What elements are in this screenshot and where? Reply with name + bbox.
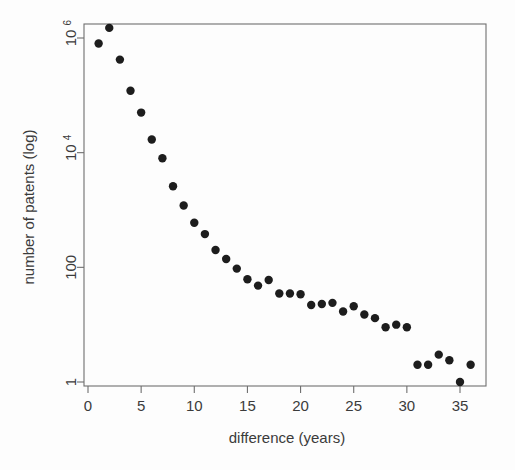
x-tick-label: 15 — [239, 397, 256, 414]
data-point — [169, 182, 177, 190]
x-tick-label: 30 — [399, 397, 416, 414]
svg-text:1: 1 — [62, 378, 79, 386]
chart-figure: 05101520253035 1100104106 difference (ye… — [0, 0, 515, 470]
svg-text:10: 10 — [62, 30, 79, 47]
data-point — [413, 361, 421, 369]
y-axis-label: number of patents (log) — [20, 129, 37, 284]
data-point — [307, 301, 315, 309]
data-point — [254, 281, 262, 289]
data-point — [116, 55, 124, 63]
x-tick-label: 0 — [84, 397, 92, 414]
data-point — [137, 108, 145, 116]
data-point — [424, 361, 432, 369]
data-point — [243, 275, 251, 283]
data-point — [233, 264, 241, 272]
plot-frame — [84, 24, 486, 386]
x-tick-label: 20 — [292, 397, 309, 414]
data-point — [158, 154, 166, 162]
data-point — [381, 323, 389, 331]
data-point — [211, 246, 219, 254]
data-point — [222, 255, 230, 263]
data-point — [148, 135, 156, 143]
data-point — [339, 307, 347, 315]
x-axis-label: difference (years) — [229, 429, 345, 446]
data-point — [360, 310, 368, 318]
data-point — [286, 289, 294, 297]
x-axis-ticks: 05101520253035 — [84, 386, 469, 414]
plot-box — [84, 24, 486, 386]
x-tick-label: 10 — [186, 397, 203, 414]
y-tick-label: 1 — [62, 378, 79, 386]
data-point — [126, 87, 134, 95]
data-point — [179, 201, 187, 209]
data-point — [435, 350, 443, 358]
data-point — [94, 39, 102, 47]
data-point — [318, 300, 326, 308]
y-axis-ticks: 1100104106 — [62, 20, 84, 387]
x-tick-label: 5 — [137, 397, 145, 414]
x-tick-label: 25 — [345, 397, 362, 414]
x-tick-label: 35 — [452, 397, 469, 414]
scatter-plot: 05101520253035 1100104106 difference (ye… — [0, 0, 515, 470]
data-point — [445, 356, 453, 364]
data-point — [466, 361, 474, 369]
data-point — [296, 290, 304, 298]
y-tick-label: 106 — [62, 20, 79, 47]
data-point — [392, 320, 400, 328]
data-point — [403, 323, 411, 331]
data-point — [350, 302, 358, 310]
data-point — [328, 299, 336, 307]
data-point — [105, 24, 113, 32]
data-point — [275, 289, 283, 297]
data-points — [94, 24, 474, 386]
svg-text:10: 10 — [62, 144, 79, 161]
y-tick-label: 100 — [62, 255, 79, 280]
data-point — [190, 219, 198, 227]
data-point — [264, 276, 272, 284]
svg-text:4: 4 — [62, 134, 73, 140]
svg-text:6: 6 — [62, 20, 73, 26]
y-tick-label: 104 — [62, 134, 79, 161]
data-point — [371, 314, 379, 322]
data-point — [456, 378, 464, 386]
data-point — [201, 230, 209, 238]
svg-text:100: 100 — [62, 255, 79, 280]
